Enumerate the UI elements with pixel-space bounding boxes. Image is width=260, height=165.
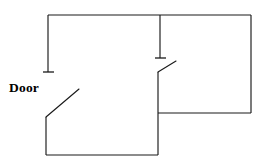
interior-door-swing-icon <box>158 61 176 72</box>
floor-plan-diagram: Door <box>0 0 260 165</box>
door-jamb-group <box>43 58 166 72</box>
door-label: Door <box>9 81 39 95</box>
door-swing-group <box>46 61 176 117</box>
wall-group <box>46 15 251 155</box>
main-door-swing-icon <box>46 89 79 117</box>
